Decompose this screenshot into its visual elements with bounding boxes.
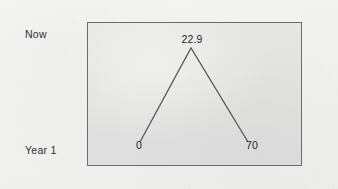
plot-frame: 22.9 0 70: [87, 22, 302, 166]
chart-figure: Now Year 1 22.9 0 70: [0, 0, 338, 189]
data-label-peak: 22.9: [181, 33, 202, 45]
series-line-value: [140, 48, 248, 142]
data-label-start: 0: [136, 139, 142, 151]
axis-caption-year-1: Year 1: [25, 144, 56, 156]
axis-caption-now: Now: [25, 28, 47, 40]
data-label-end: 70: [246, 139, 258, 151]
